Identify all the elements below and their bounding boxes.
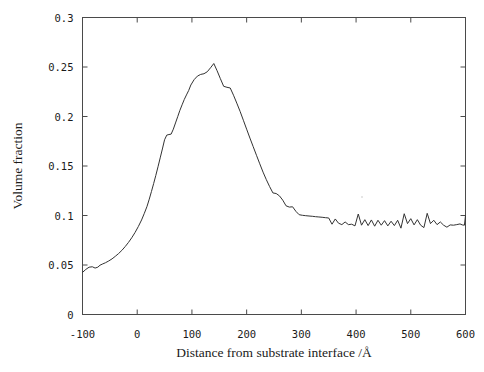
image-artifact-speck [361,196,362,197]
x-tick-label: 400 [347,328,366,340]
x-tick-label: 600 [456,328,475,340]
x-tick-label: 200 [237,328,256,340]
y-axis-title: Volume fraction [10,122,25,209]
y-tick-label: 0.1 [55,210,74,222]
chart-page: -1000100200300400500600 00.050.10.150.20… [0,0,484,372]
y-tick-label: 0.05 [48,259,73,271]
x-tick-label: 500 [401,328,420,340]
x-tick-label: 300 [292,328,311,340]
y-tick-label: 0 [67,309,73,321]
x-tick-label: -100 [70,328,95,340]
y-tick-label: 0.25 [48,61,73,73]
y-tick-label: 0.3 [55,12,74,24]
volume-fraction-line-chart: -1000100200300400500600 00.050.10.150.20… [0,0,484,372]
y-tick-label: 0.15 [48,160,73,172]
x-tick-label: 100 [182,328,201,340]
y-tick-label: 0.2 [55,111,74,123]
x-axis-title: Distance from substrate interface /Å [176,345,372,360]
x-tick-label: 0 [134,328,140,340]
